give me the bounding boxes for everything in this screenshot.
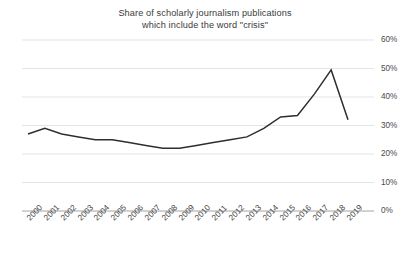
data-line-series bbox=[28, 70, 348, 148]
y-tick-label-30: 30% bbox=[381, 121, 409, 130]
y-tick-label-10: 10% bbox=[381, 178, 409, 187]
y-tick-label-50: 50% bbox=[381, 64, 409, 73]
chart-container: Share of scholarly journalism publicatio… bbox=[0, 0, 410, 258]
y-tick-label-40: 40% bbox=[381, 92, 409, 101]
y-tick-label-60: 60% bbox=[381, 35, 409, 44]
y-tick-label-0: 0% bbox=[381, 206, 409, 215]
gridlines-group bbox=[22, 40, 374, 211]
y-tick-label-20: 20% bbox=[381, 149, 409, 158]
